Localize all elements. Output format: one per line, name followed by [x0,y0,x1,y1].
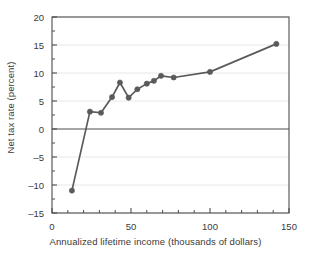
data-point [158,73,163,78]
data-point [207,69,212,74]
data-point [151,78,156,83]
plot-frame [52,17,289,213]
data-point [109,94,114,99]
data-point [171,75,176,80]
series-line-0 [72,44,276,191]
data-point [69,188,74,193]
plot-canvas [0,0,311,259]
data-point [98,110,103,115]
data-point [274,41,279,46]
data-point [117,80,122,85]
data-point [126,95,131,100]
chart-figure: Net tax rate (percent) Annualized lifeti… [0,0,311,259]
data-point [135,87,140,92]
data-point [87,109,92,114]
data-point [144,81,149,86]
